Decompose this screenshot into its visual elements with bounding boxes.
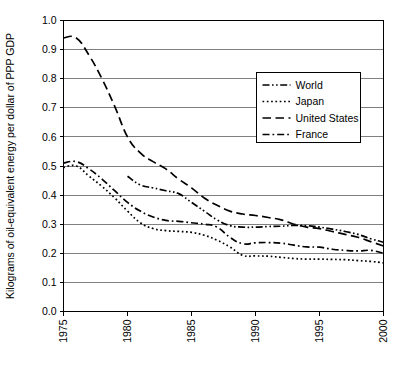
- legend-label-world: World: [296, 79, 323, 91]
- y-tick-label-3: 0.3: [42, 218, 57, 230]
- y-axis-title-text: Kilograms of oil-equivalent energy per d…: [4, 33, 16, 299]
- chart-legend[interactable]: WorldJapanUnited StatesFrance: [257, 73, 361, 143]
- y-tick-label-6: 0.6: [42, 131, 57, 143]
- energy-intensity-line-chart: 0.00.10.20.30.40.50.60.70.80.91.0 197519…: [0, 0, 405, 376]
- x-tick-label-5: 2000: [377, 319, 389, 343]
- y-tick-label-7: 0.7: [42, 101, 57, 113]
- y-axis-title: Kilograms of oil-equivalent energy per d…: [4, 33, 16, 299]
- series-line-france: [64, 161, 384, 253]
- x-tick-label-1: 1980: [121, 319, 133, 343]
- y-tick-label-1: 0.1: [42, 276, 57, 288]
- x-tick-label-2: 1985: [185, 319, 197, 343]
- y-tick-label-4: 0.4: [42, 189, 57, 201]
- x-tick-label-3: 1990: [249, 319, 261, 343]
- series-line-world: [128, 176, 384, 242]
- legend-label-united-states: United States: [296, 112, 359, 124]
- y-tick-label-10: 1.0: [42, 14, 57, 26]
- y-axis-ticks-group: 0.00.10.20.30.40.50.60.70.80.91.0: [42, 14, 64, 317]
- data-series-group: [64, 36, 384, 263]
- series-line-japan: [64, 165, 384, 263]
- chart-container: 0.00.10.20.30.40.50.60.70.80.91.0 197519…: [0, 0, 405, 376]
- legend-label-japan: Japan: [296, 95, 325, 107]
- y-tick-label-2: 0.2: [42, 247, 57, 259]
- y-tick-label-9: 0.9: [42, 43, 57, 55]
- x-tick-label-4: 1995: [313, 319, 325, 343]
- x-axis-ticks-group: 197519801985199019952000: [57, 312, 389, 343]
- y-tick-label-0: 0.0: [42, 305, 57, 317]
- y-tick-label-5: 0.5: [42, 160, 57, 172]
- y-tick-label-8: 0.8: [42, 72, 57, 84]
- legend-label-france: France: [296, 128, 329, 140]
- x-tick-label-0: 1975: [57, 319, 69, 343]
